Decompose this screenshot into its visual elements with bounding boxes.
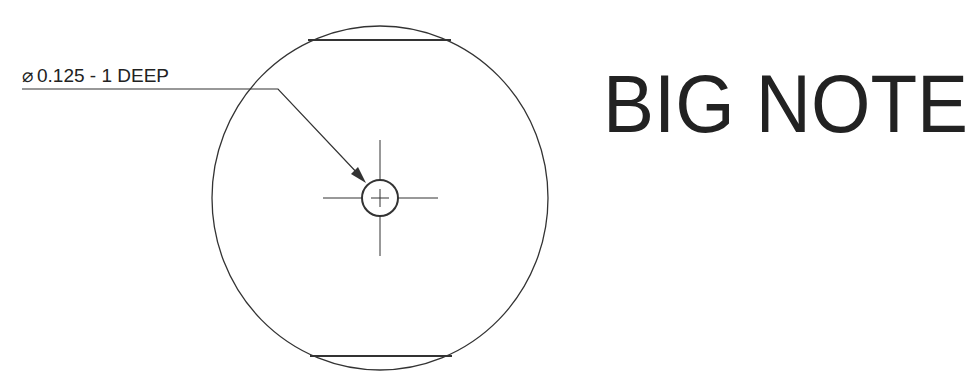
callout-text: ⌀0.125 - 1 DEEP (22, 65, 169, 86)
diameter-symbol: ⌀ (22, 65, 33, 86)
callout-leader (22, 89, 366, 183)
leader-line (22, 89, 360, 176)
big-note-text: BIG NOTE (603, 59, 968, 149)
technical-drawing: ⌀0.125 - 1 DEEP BIG NOTE (0, 0, 975, 388)
hole-feature (323, 140, 438, 256)
callout-value: 0.125 - 1 DEEP (37, 65, 169, 86)
